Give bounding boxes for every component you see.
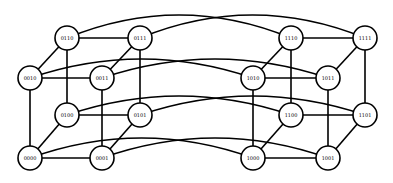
node-0001: 0001 <box>90 146 114 170</box>
node-1000: 1000 <box>241 146 265 170</box>
node-1100: 1100 <box>279 103 303 127</box>
edge-0100-1100 <box>67 96 291 115</box>
node-label: 0001 <box>96 155 109 161</box>
node-1111: 1111 <box>353 26 377 50</box>
edges-layer <box>30 15 365 158</box>
node-label: 0101 <box>134 112 147 118</box>
node-label: 0011 <box>96 75 109 81</box>
node-label: 1100 <box>285 112 298 118</box>
node-0110: 0110 <box>55 26 79 50</box>
node-label: 1011 <box>322 75 335 81</box>
node-label: 1000 <box>247 155 260 161</box>
node-0111: 0111 <box>128 26 152 50</box>
node-label: 1010 <box>247 75 260 81</box>
node-0100: 0100 <box>55 103 79 127</box>
node-label: 1001 <box>322 155 335 161</box>
edge-0111-1111 <box>140 15 365 38</box>
edge-0010-1010 <box>30 59 253 78</box>
node-1001: 1001 <box>316 146 340 170</box>
node-label: 0111 <box>134 35 147 41</box>
hypercube-graph-svg: 0110011100100011010001010000000111101111… <box>0 0 393 183</box>
node-0000: 0000 <box>18 146 42 170</box>
edge-0001-1001 <box>102 138 328 158</box>
node-label: 1110 <box>285 35 298 41</box>
node-1101: 1101 <box>353 103 377 127</box>
hypercube-diagram: 0110011100100011010001010000000111101111… <box>0 0 393 183</box>
node-1011: 1011 <box>316 66 340 90</box>
edge-0110-1110 <box>67 15 291 38</box>
node-label: 0010 <box>24 75 37 81</box>
node-1110: 1110 <box>279 26 303 50</box>
node-1010: 1010 <box>241 66 265 90</box>
node-0010: 0010 <box>18 66 42 90</box>
node-label: 0110 <box>61 35 74 41</box>
node-label: 0100 <box>61 112 74 118</box>
nodes-layer: 0110011100100011010001010000000111101111… <box>18 26 377 170</box>
edge-0000-1000 <box>30 138 253 158</box>
node-label: 0000 <box>24 155 37 161</box>
node-0011: 0011 <box>90 66 114 90</box>
node-label: 1111 <box>359 35 372 41</box>
edge-0011-1011 <box>102 59 328 78</box>
node-label: 1101 <box>359 112 372 118</box>
node-0101: 0101 <box>128 103 152 127</box>
